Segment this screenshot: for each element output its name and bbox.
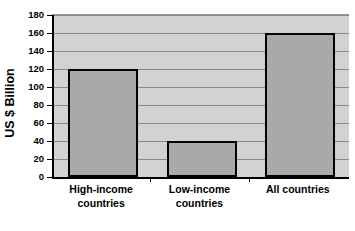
- x-axis-category-label-line: countries: [150, 197, 248, 211]
- x-axis-category-label-line: countries: [52, 197, 150, 211]
- y-axis-tick-label: 160: [18, 28, 44, 38]
- x-axis-category-label-line: Low-income: [150, 183, 248, 197]
- bar: [265, 33, 335, 177]
- bar: [68, 69, 138, 177]
- y-axis-tick-label: 140: [18, 46, 44, 56]
- y-axis-title: US $ Billion: [0, 38, 20, 168]
- y-axis-tick-label: 180: [18, 10, 44, 20]
- bar: [167, 141, 237, 177]
- y-axis-tick-label: 20: [18, 154, 44, 164]
- bar-chart: US $ Billion 180160140120100806040200 Hi…: [0, 0, 355, 231]
- x-axis-category-labels: High-incomecountriesLow-incomecountriesA…: [52, 183, 347, 227]
- y-axis-tick-label: 0: [18, 172, 44, 182]
- x-axis-category-label-line: High-income: [52, 183, 150, 197]
- y-axis-tick-labels: 180160140120100806040200: [18, 15, 44, 177]
- x-axis-category-label-line: All countries: [249, 183, 347, 197]
- y-axis-tick-label: 40: [18, 136, 44, 146]
- x-axis-category-label: Low-incomecountries: [150, 183, 248, 210]
- y-axis-tick-label: 80: [18, 100, 44, 110]
- y-axis-tick-label: 100: [18, 82, 44, 92]
- x-axis-category-label: All countries: [249, 183, 347, 197]
- y-axis-tick-label: 120: [18, 64, 44, 74]
- gridline: [54, 15, 349, 16]
- y-axis-title-text: US $ Billion: [3, 68, 17, 137]
- plot-area: [52, 15, 349, 179]
- y-axis-tick-label: 60: [18, 118, 44, 128]
- x-axis-category-label: High-incomecountries: [52, 183, 150, 210]
- x-axis-tick-mark: [150, 177, 151, 182]
- x-axis-tick-mark: [249, 177, 250, 182]
